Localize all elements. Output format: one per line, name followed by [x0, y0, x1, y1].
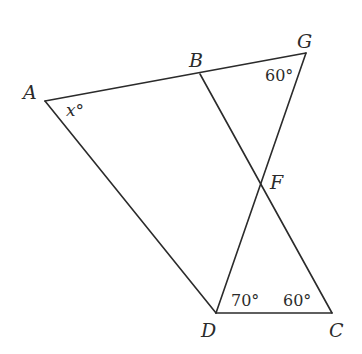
angle-label-c: 60°	[283, 291, 311, 310]
vertex-label-a: A	[21, 81, 37, 103]
vertex-label-c: C	[329, 319, 344, 341]
segment-ad	[45, 101, 216, 313]
angle-label-a: x°	[66, 100, 84, 120]
angle-label-g: 60°	[265, 66, 293, 85]
vertex-label-d: D	[200, 319, 216, 341]
vertex-label-g: G	[297, 30, 312, 52]
vertex-label-f: F	[269, 171, 284, 193]
geometry-diagram: A B G F D C x° 60° 70° 60°	[0, 0, 362, 354]
vertex-label-b: B	[188, 49, 203, 71]
angle-label-d: 70°	[231, 291, 259, 310]
diagram-svg: A B G F D C x° 60° 70° 60°	[0, 0, 362, 354]
segment-gd	[216, 53, 306, 313]
segment-bc	[200, 74, 332, 313]
